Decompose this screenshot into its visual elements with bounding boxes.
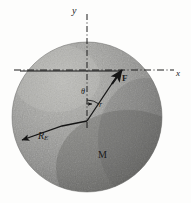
earth-radius-subscript: E [44,134,48,142]
physics-diagram: y x F θ r RE M [0,0,191,203]
earth-radius-label: RE [38,131,48,142]
x-axis-label: x [176,69,180,78]
angle-theta-label: θ [81,88,85,96]
mass-label: M [98,150,107,160]
diagram-canvas [0,0,191,203]
radius-vector-label: r [99,101,102,109]
y-axis-label: y [72,6,76,16]
force-vector-label: F [122,74,128,83]
sphere-mass-M [12,42,191,203]
